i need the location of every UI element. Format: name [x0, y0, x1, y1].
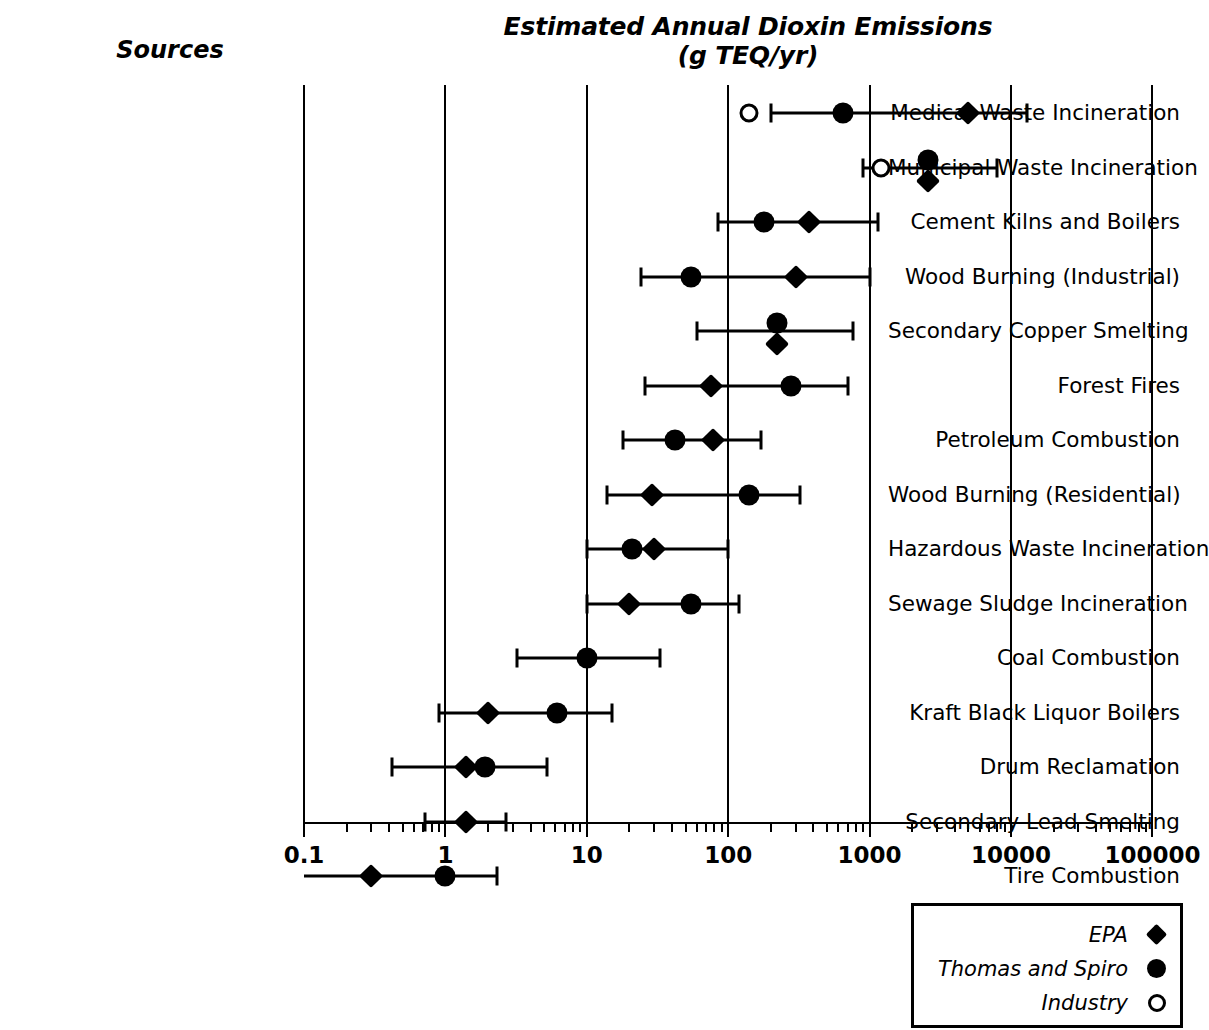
- industry-marker[interactable]: [739, 104, 758, 123]
- range-line: [623, 439, 761, 442]
- category-label: Secondary Copper Smelting: [888, 320, 1188, 342]
- thomas-spiro-marker[interactable]: [474, 757, 495, 778]
- x-axis-tick: [512, 822, 514, 832]
- range-line: [607, 493, 799, 496]
- x-axis-tick: [653, 822, 655, 832]
- x-axis-tick: [770, 822, 772, 832]
- x-axis-tick-label: 10: [571, 842, 603, 868]
- range-cap: [851, 322, 854, 341]
- filled-circle-icon: [1146, 958, 1168, 980]
- x-axis-tick: [579, 822, 581, 832]
- thomas-spiro-marker[interactable]: [754, 212, 775, 233]
- thomas-spiro-marker[interactable]: [681, 266, 702, 287]
- thomas-spiro-marker[interactable]: [435, 866, 456, 887]
- gridline-1000: [869, 85, 871, 822]
- category-label: Hazardous Waste Incineration: [888, 538, 1188, 560]
- legend-box: EPAThomas and SpiroIndustry: [911, 903, 1183, 1028]
- industry-marker[interactable]: [871, 158, 890, 177]
- legend-item: Industry: [1042, 988, 1168, 1018]
- range-cap: [862, 158, 865, 177]
- range-cap: [769, 104, 772, 123]
- x-axis-tick: [346, 822, 348, 832]
- legend-label: EPA: [1089, 923, 1128, 947]
- thomas-spiro-marker[interactable]: [664, 430, 685, 451]
- x-axis-tick-label: 1: [437, 842, 453, 868]
- thomas-spiro-marker[interactable]: [918, 149, 939, 170]
- epa-marker[interactable]: [640, 482, 664, 506]
- category-label: Drum Reclamation: [888, 756, 1188, 778]
- thomas-spiro-marker[interactable]: [681, 593, 702, 614]
- filled-circle-glyph: [1147, 959, 1166, 978]
- category-label: Forest Fires: [888, 375, 1188, 397]
- x-axis-tick: [628, 822, 630, 832]
- range-line: [641, 275, 870, 278]
- legend-item: Thomas and Spiro: [938, 954, 1168, 984]
- x-axis-tick: [530, 822, 532, 832]
- x-axis-tick-label: 100: [704, 842, 752, 868]
- x-axis-tick: [869, 822, 871, 837]
- range-line: [304, 875, 497, 878]
- range-cap: [695, 322, 698, 341]
- x-axis-tick: [705, 822, 707, 832]
- x-axis-tick: [402, 822, 404, 832]
- epa-marker[interactable]: [784, 264, 808, 288]
- range-cap: [610, 703, 613, 722]
- range-cap: [621, 431, 624, 450]
- x-axis-tick: [413, 822, 415, 832]
- thomas-spiro-marker[interactable]: [547, 702, 568, 723]
- range-cap: [1026, 104, 1029, 123]
- thomas-spiro-marker[interactable]: [833, 103, 854, 124]
- range-cap: [727, 540, 730, 559]
- thomas-spiro-marker[interactable]: [576, 648, 597, 669]
- epa-marker[interactable]: [476, 700, 500, 724]
- thomas-spiro-marker[interactable]: [738, 484, 759, 505]
- x-axis-tick: [671, 822, 673, 832]
- range-cap: [585, 594, 588, 613]
- x-axis-tick: [727, 822, 729, 837]
- epa-marker[interactable]: [359, 864, 383, 888]
- range-cap: [738, 594, 741, 613]
- gridline-0.1: [303, 85, 305, 822]
- range-cap: [639, 267, 642, 286]
- x-axis-tick: [696, 822, 698, 832]
- category-label: Kraft Black Liquor Boilers: [888, 702, 1188, 724]
- epa-marker[interactable]: [699, 373, 723, 397]
- x-axis-tick: [487, 822, 489, 832]
- range-cap: [644, 376, 647, 395]
- legend-item: EPA: [1089, 920, 1168, 950]
- epa-marker[interactable]: [454, 809, 478, 833]
- range-cap: [515, 649, 518, 668]
- range-cap: [391, 758, 394, 777]
- diamond-icon: [1146, 924, 1168, 946]
- epa-marker[interactable]: [701, 428, 725, 452]
- x-axis-tick: [572, 822, 574, 832]
- thomas-spiro-marker[interactable]: [781, 375, 802, 396]
- epa-marker[interactable]: [797, 210, 821, 234]
- range-line: [645, 384, 847, 387]
- x-axis-tick: [564, 822, 566, 832]
- epa-marker[interactable]: [642, 537, 666, 561]
- epa-marker[interactable]: [617, 591, 641, 615]
- x-axis-tick: [713, 822, 715, 832]
- x-axis-tick: [862, 822, 864, 832]
- x-axis-tick: [721, 822, 723, 832]
- range-cap: [659, 649, 662, 668]
- range-cap: [759, 431, 762, 450]
- x-axis-tick: [431, 822, 433, 832]
- category-label: Coal Combustion: [888, 647, 1188, 669]
- open-circle-glyph: [1148, 994, 1166, 1012]
- x-axis-tick: [543, 822, 545, 832]
- range-cap: [606, 485, 609, 504]
- x-axis-tick: [554, 822, 556, 832]
- thomas-spiro-marker[interactable]: [622, 539, 643, 560]
- x-axis-tick: [444, 822, 446, 837]
- epa-marker[interactable]: [765, 332, 789, 356]
- range-line: [587, 602, 740, 605]
- thomas-spiro-marker[interactable]: [766, 313, 787, 334]
- open-circle-icon: [1146, 992, 1168, 1014]
- range-cap: [846, 376, 849, 395]
- x-axis-tick: [837, 822, 839, 832]
- range-cap: [585, 540, 588, 559]
